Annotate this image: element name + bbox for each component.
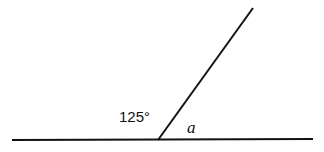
ray-line <box>158 8 253 140</box>
straight-line <box>12 139 313 140</box>
angle-diagram: 125° a <box>0 0 324 152</box>
known-angle-label: 125° <box>119 108 150 125</box>
unknown-angle-label: a <box>187 118 196 137</box>
